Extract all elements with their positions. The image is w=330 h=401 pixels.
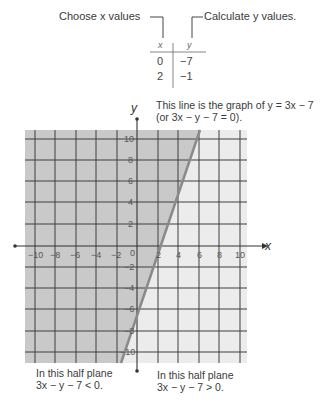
right-half-caption-1: In this half plane bbox=[157, 369, 233, 381]
y-axis-arrow-icon bbox=[135, 117, 139, 121]
diagram-canvas bbox=[0, 0, 330, 401]
y-tick: 6 bbox=[128, 176, 133, 186]
x-tick: −4 bbox=[91, 250, 101, 260]
x-tick: 8 bbox=[217, 250, 222, 260]
table-cell-x-1: 2 bbox=[157, 70, 163, 82]
y-tick: −2 bbox=[124, 262, 134, 272]
y-axis-label: y bbox=[131, 101, 137, 115]
right-half-caption-2: 3x − y − 7 > 0. bbox=[157, 381, 233, 393]
table-header-x: x bbox=[158, 40, 163, 50]
x-tick: −2 bbox=[111, 250, 121, 260]
x-tick: −8 bbox=[50, 250, 60, 260]
x-tick: 4 bbox=[176, 250, 181, 260]
table-cell-x-0: 0 bbox=[157, 55, 163, 67]
y-tick: −10 bbox=[120, 347, 135, 357]
y-tick: −4 bbox=[124, 283, 134, 293]
y-tick: −6 bbox=[124, 304, 134, 314]
y-axis-bottom-arrow-icon bbox=[135, 369, 139, 373]
y-tick: 8 bbox=[128, 155, 133, 165]
choose-x-leader bbox=[150, 17, 163, 38]
x-tick: −6 bbox=[70, 250, 80, 260]
y-tick: 10 bbox=[124, 134, 134, 144]
y-tick: 2 bbox=[128, 219, 133, 229]
y-tick: −8 bbox=[124, 326, 134, 336]
x-axis-label: x bbox=[265, 239, 271, 253]
line-caption-1: This line is the graph of y = 3x − 7 bbox=[156, 99, 314, 111]
table-header-y: y bbox=[187, 40, 192, 50]
left-half-plane-caption: In this half plane 3x − y − 7 < 0. bbox=[36, 367, 112, 391]
x-tick: 0 bbox=[130, 248, 135, 258]
y-tick: 4 bbox=[128, 197, 133, 207]
x-tick: 2 bbox=[156, 250, 161, 260]
table-cell-y-1: −1 bbox=[180, 70, 193, 82]
x-tick: 6 bbox=[197, 250, 202, 260]
left-half-caption-1: In this half plane bbox=[36, 367, 112, 379]
x-tick: −10 bbox=[28, 250, 43, 260]
calculate-y-leader bbox=[192, 17, 203, 38]
right-half-plane-caption: In this half plane 3x − y − 7 > 0. bbox=[157, 369, 233, 393]
x-tick: 10 bbox=[235, 250, 245, 260]
line-caption: This line is the graph of y = 3x − 7 (or… bbox=[156, 99, 314, 123]
left-half-caption-2: 3x − y − 7 < 0. bbox=[36, 379, 112, 391]
table-cell-y-0: −7 bbox=[180, 55, 193, 67]
line-caption-2: (or 3x − y − 7 = 0). bbox=[156, 111, 314, 123]
x-axis-left-arrow-icon bbox=[13, 244, 17, 248]
